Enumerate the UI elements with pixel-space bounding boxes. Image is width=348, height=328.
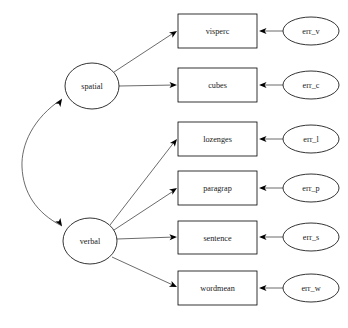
observed-label-visperc: visperc: [206, 27, 230, 36]
error-label-err_l: err_l: [303, 135, 319, 144]
sem-path-diagram: visperccubeslozengesparagrapsentenceword…: [0, 0, 348, 328]
covariance-arrowhead-spatial: [55, 97, 64, 107]
observed-variable-wordmean[interactable]: wordmean: [178, 271, 257, 305]
observed-variable-paragrap[interactable]: paragrap: [178, 171, 257, 205]
loading-edge-verbal-lozenges: [110, 141, 175, 225]
error-label-err_p: err_p: [302, 184, 319, 193]
error-term-err_s[interactable]: err_s: [283, 223, 339, 251]
error-term-err_c[interactable]: err_c: [283, 71, 339, 99]
diagram-canvas: visperccubeslozengesparagrapsentenceword…: [0, 0, 348, 328]
observed-variable-lozenges[interactable]: lozenges: [178, 122, 257, 156]
latent-label-spatial: spatial: [81, 82, 103, 91]
loading-edge-verbal-paragrap: [114, 190, 175, 230]
loading-edge-verbal-wordmean: [112, 257, 175, 286]
covariance-curve: [22, 99, 62, 226]
observed-variables-layer: visperccubeslozengesparagrapsentenceword…: [178, 14, 257, 305]
error-label-err_s: err_s: [303, 233, 319, 242]
latent-label-verbal: verbal: [80, 237, 101, 246]
observed-variable-visperc[interactable]: visperc: [178, 14, 257, 48]
observed-variable-sentence[interactable]: sentence: [178, 221, 257, 254]
loading-edge-spatial-visperc: [114, 32, 175, 72]
latent-variable-spatial[interactable]: spatial: [65, 63, 119, 109]
covariance-layer: [22, 97, 65, 227]
arrowhead-verbal-wordmean: [169, 281, 178, 290]
observed-label-sentence: sentence: [203, 234, 232, 243]
observed-label-wordmean: wordmean: [200, 284, 235, 293]
error-label-err_v: err_v: [302, 27, 320, 36]
error-label-err_w: err_w: [301, 284, 320, 293]
arrowhead-spatial-visperc: [169, 28, 179, 37]
observed-variable-cubes[interactable]: cubes: [178, 68, 257, 102]
error-terms-layer: err_verr_cerr_lerr_perr_serr_w: [283, 17, 339, 302]
latent-variable-verbal[interactable]: verbal: [63, 218, 117, 264]
latent-variables-layer: spatialverbal: [63, 63, 119, 264]
loading-edge-verbal-sentence: [117, 237, 175, 239]
observed-label-paragrap: paragrap: [203, 184, 232, 193]
loading-edge-spatial-cubes: [119, 85, 175, 86]
observed-label-cubes: cubes: [208, 81, 227, 90]
error-term-err_l[interactable]: err_l: [283, 125, 339, 153]
observed-label-lozenges: lozenges: [203, 135, 232, 144]
loading-edges-layer: [110, 28, 179, 289]
error-term-err_w[interactable]: err_w: [283, 274, 339, 302]
error-term-err_p[interactable]: err_p: [283, 174, 339, 202]
error-edges-layer: [259, 28, 283, 291]
error-term-err_v[interactable]: err_v: [283, 17, 339, 45]
error-label-err_c: err_c: [303, 81, 320, 90]
